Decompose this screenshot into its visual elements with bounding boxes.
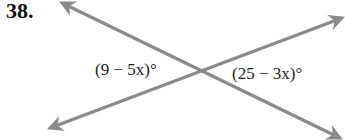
angle-label-left: (9 − 5x)° [95,60,157,80]
angle-label-right: (25 − 3x)° [232,64,302,84]
